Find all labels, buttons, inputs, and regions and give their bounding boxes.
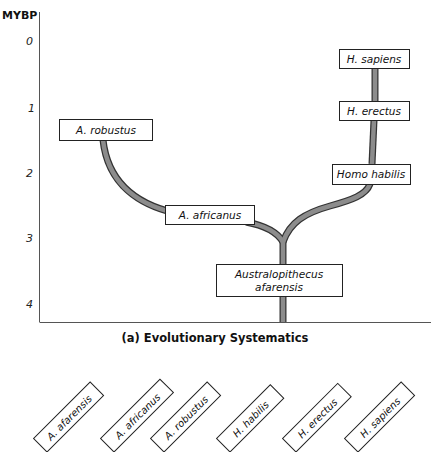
box-afarensis-label-line2: afarensis <box>255 281 303 293</box>
tick-2: 2 <box>26 167 33 180</box>
svg-text:A. afarensis: A. afarensis <box>44 393 94 443</box>
box-h-erectus-label: H. erectus <box>347 105 401 117</box>
box-afarensis-label-line1: Australopithecus <box>234 268 324 280</box>
tick-1: 1 <box>28 102 35 115</box>
tick-0: 0 <box>26 35 33 48</box>
box-australopithecus-afarensis: Australopithecus afarensis <box>217 265 343 297</box>
cladogram-labels: A. afarensis A. africanus A. robustus H.… <box>34 379 415 452</box>
box-homo-habilis: Homo habilis <box>333 165 411 185</box>
box-h-sapiens: H. sapiens <box>340 50 410 69</box>
clado-label-a-afarensis: A. afarensis <box>34 382 104 452</box>
box-a-africanus-label: A. africanus <box>178 209 242 221</box>
svg-text:H. sapiens: H. sapiens <box>358 395 403 440</box>
clado-label-h-habilis: H. habilis <box>217 385 284 452</box>
box-h-erectus: H. erectus <box>340 102 410 121</box>
box-a-africanus: A. africanus <box>166 206 255 225</box>
svg-text:A. robustus: A. robustus <box>162 394 211 443</box>
clado-label-h-sapiens: H. sapiens <box>345 382 415 452</box>
box-a-robustus-label: A. robustus <box>75 124 136 136</box>
evolution-diagram: MYBP 0 1 2 3 4 A. robustus A. africanus <box>0 0 431 452</box>
box-homo-habilis-label: Homo habilis <box>337 168 406 180</box>
tick-4: 4 <box>26 298 33 311</box>
tick-3: 3 <box>26 232 33 245</box>
figure-caption: (a) Evolutionary Systematics <box>122 331 309 345</box>
box-h-sapiens-label: H. sapiens <box>347 53 402 65</box>
box-a-robustus: A. robustus <box>60 120 153 141</box>
y-axis-label: MYBP <box>2 9 37 22</box>
clado-label-h-erectus: H. erectus <box>283 383 352 452</box>
